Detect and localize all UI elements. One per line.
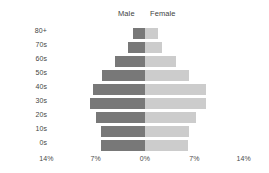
pyramid-row: 40s	[0, 82, 269, 96]
pyramid-row: 80+	[0, 26, 269, 40]
x-axis-tick-label: 14%	[237, 155, 251, 162]
bar-male-70s	[128, 42, 145, 53]
category-label-0s: 0s	[39, 139, 47, 146]
bar-female-50s	[145, 70, 189, 81]
pyramid-row: 70s	[0, 40, 269, 54]
category-label-60s: 60s	[35, 55, 47, 62]
x-axis-tick-label: 14%	[39, 155, 53, 162]
bar-male-30s	[90, 98, 145, 109]
population-pyramid-chart: Male Female 80+70s60s50s40s30s20s10s0s 1…	[0, 0, 269, 173]
pyramid-row: 50s	[0, 68, 269, 82]
category-label-50s: 50s	[35, 69, 47, 76]
bar-male-10s	[101, 126, 145, 137]
chart-legend: Male Female	[0, 9, 269, 21]
category-label-20s: 20s	[35, 111, 47, 118]
bar-male-50s	[102, 70, 145, 81]
pyramid-row: 60s	[0, 54, 269, 68]
bar-female-0s	[145, 140, 188, 151]
x-axis: 14%7%0%7%14%	[0, 155, 269, 169]
bar-female-30s	[145, 98, 206, 109]
legend-label-male: Male	[118, 9, 135, 18]
category-label-40s: 40s	[35, 83, 47, 90]
bar-male-20s	[96, 112, 145, 123]
x-axis-tick-label: 7%	[189, 155, 199, 162]
category-label-10s: 10s	[35, 125, 47, 132]
x-axis-tick-label: 0%	[140, 155, 150, 162]
pyramid-row: 30s	[0, 96, 269, 110]
bar-male-40s	[93, 84, 145, 95]
bar-female-20s	[145, 112, 196, 123]
bar-male-80plus	[133, 28, 145, 39]
bar-female-70s	[145, 42, 162, 53]
plot-area: 80+70s60s50s40s30s20s10s0s	[0, 26, 269, 152]
bar-female-60s	[145, 56, 176, 67]
x-axis-tick-label: 7%	[90, 155, 100, 162]
pyramid-row: 0s	[0, 138, 269, 152]
bar-male-60s	[115, 56, 145, 67]
category-label-30s: 30s	[35, 97, 47, 104]
pyramid-row: 10s	[0, 124, 269, 138]
bar-female-10s	[145, 126, 189, 137]
category-label-70s: 70s	[35, 41, 47, 48]
bar-female-80plus	[145, 28, 158, 39]
bar-female-40s	[145, 84, 206, 95]
legend-label-female: Female	[150, 9, 176, 18]
bar-male-0s	[101, 140, 145, 151]
category-label-80plus: 80+	[35, 27, 47, 34]
pyramid-row: 20s	[0, 110, 269, 124]
